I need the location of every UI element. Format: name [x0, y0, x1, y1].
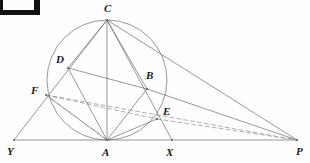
point-label-y: Y — [7, 146, 14, 157]
point-label-c: C — [104, 3, 111, 14]
point-label-b: B — [146, 70, 153, 81]
solid-lines-group — [14, 20, 297, 140]
segment-C-X — [107, 20, 172, 140]
vertex-markers-group — [13, 19, 298, 141]
geometry-diagram-svg — [0, 0, 310, 163]
vertex-point-a — [106, 139, 108, 141]
vertex-point-c — [106, 19, 108, 21]
vertex-point-p — [296, 139, 298, 141]
segment-C-D — [68, 20, 107, 68]
segment-Y-C — [14, 20, 107, 140]
vertex-point-d — [67, 67, 69, 69]
dashed-E-P — [157, 119, 297, 140]
point-label-e: E — [163, 106, 170, 117]
vertex-point-y — [13, 139, 15, 141]
segment-B-A — [107, 89, 147, 140]
vertex-point-f — [45, 94, 47, 96]
segment-D-B — [68, 68, 147, 89]
point-label-x: X — [166, 147, 173, 158]
geometry-figure-canvas: CDBFEYAXP — [0, 0, 310, 163]
vertex-point-e — [156, 118, 158, 120]
point-label-f: F — [31, 85, 38, 96]
point-label-d: D — [56, 54, 64, 65]
segment-C-P — [107, 20, 297, 140]
dashed-F-P — [46, 95, 297, 140]
vertex-point-b — [146, 88, 148, 90]
point-label-p: P — [296, 146, 303, 157]
vertex-point-x — [171, 139, 173, 141]
dashed-lines-group — [46, 95, 297, 140]
point-label-a: A — [102, 147, 109, 158]
